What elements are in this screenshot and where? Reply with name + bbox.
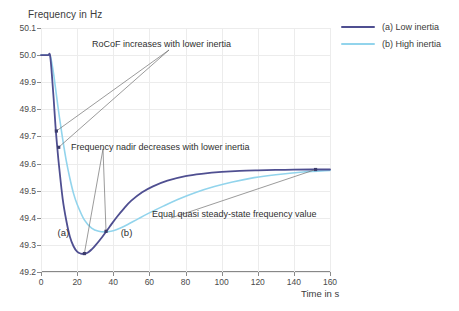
annotation-nadir: Frequency nadir decreases with lower ine… xyxy=(71,142,250,152)
annotation-marker xyxy=(83,252,86,255)
x-tick-mark xyxy=(294,272,295,276)
x-tick-label: 0 xyxy=(39,277,44,287)
leader-line xyxy=(56,50,169,131)
chart-figure: Frequency in Hz Time in s 50.150.049.949… xyxy=(0,0,459,311)
y-tick-label: 49.4 xyxy=(19,213,36,223)
x-tick-mark xyxy=(77,272,78,276)
x-tick-mark xyxy=(258,272,259,276)
curve-label: (a) xyxy=(58,227,70,238)
legend-label-a: (a) Low inertia xyxy=(382,22,439,32)
x-tick-mark xyxy=(41,272,42,276)
x-tick-label: 100 xyxy=(215,277,229,287)
y-tick-label: 49.7 xyxy=(19,131,36,141)
x-tick-label: 40 xyxy=(109,277,118,287)
y-tick-label: 49.9 xyxy=(19,77,36,87)
x-tick-label: 160 xyxy=(323,277,337,287)
y-tick-label: 50.1 xyxy=(19,23,36,33)
x-tick-label: 20 xyxy=(72,277,81,287)
y-axis-title: Frequency in Hz xyxy=(28,9,102,20)
x-tick-mark xyxy=(149,272,150,276)
annotation-marker xyxy=(314,168,317,171)
annotation-marker xyxy=(55,129,58,132)
y-tick-label: 49.8 xyxy=(19,104,36,114)
x-tick-mark xyxy=(186,272,187,276)
x-tick-label: 80 xyxy=(181,277,190,287)
legend-swatch-a xyxy=(341,26,375,29)
y-tick-label: 50.0 xyxy=(19,50,36,60)
gridline-vertical xyxy=(330,28,331,272)
legend-label-b: (b) High inertia xyxy=(382,39,441,49)
y-tick-label: 49.3 xyxy=(19,240,36,250)
x-tick-label: 120 xyxy=(251,277,265,287)
x-tick-label: 60 xyxy=(145,277,154,287)
legend-item-a: (a) Low inertia xyxy=(341,22,441,32)
leader-line xyxy=(59,50,169,147)
y-tick-label: 49.6 xyxy=(19,159,36,169)
x-tick-mark xyxy=(330,272,331,276)
legend-item-b: (b) High inertia xyxy=(341,39,441,49)
curve-label: (b) xyxy=(121,227,133,238)
y-tick-label: 49.5 xyxy=(19,186,36,196)
annotation-marker xyxy=(57,146,60,149)
legend: (a) Low inertia (b) High inertia xyxy=(341,22,441,56)
legend-swatch-b xyxy=(341,43,375,46)
leader-line xyxy=(84,149,103,254)
annotation-marker xyxy=(104,230,107,233)
x-tick-label: 140 xyxy=(287,277,301,287)
x-axis-title: Time in s xyxy=(301,288,339,299)
annotation-qss: Equal quasi steady-state frequency value xyxy=(152,209,317,219)
x-tick-mark xyxy=(222,272,223,276)
leader-line xyxy=(103,149,106,231)
y-tick-label: 49.2 xyxy=(19,267,36,277)
annotation-rocof: RoCoF increases with lower inertia xyxy=(92,39,231,49)
x-tick-mark xyxy=(113,272,114,276)
